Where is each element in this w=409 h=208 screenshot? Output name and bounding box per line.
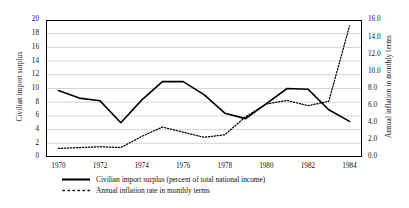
y-axis-left-tick-label: 8 <box>17 98 39 106</box>
x-axis-tick-label: 1978 <box>210 162 240 170</box>
y-axis-right-tick-label: 4.0 <box>368 118 392 126</box>
y-axis-left-tick-label: 6 <box>17 111 39 119</box>
y-axis-right-tick-label: 2.0 <box>368 135 392 143</box>
y-axis-left-tick-label: 2 <box>17 139 39 147</box>
y-axis-right-tick-label: 16.0 <box>368 15 392 23</box>
x-axis-tick-label: 1980 <box>251 162 281 170</box>
y-axis-right-tick-label: 6.0 <box>368 101 392 109</box>
legend-label-annual-inflation-rate: Annual inflation rate in monthly terms <box>92 186 210 195</box>
x-axis-tick-label: 1976 <box>168 162 198 170</box>
y-axis-right-tick-label: 12.0 <box>368 50 392 58</box>
x-axis-tick-label: 1974 <box>127 162 157 170</box>
plot-svg <box>46 20 362 157</box>
y-axis-left-tick-label: 0 <box>17 152 39 160</box>
y-axis-right-tick-label: 0.0 <box>368 152 392 160</box>
legend-item-annual-inflation-rate: Annual inflation rate in monthly terms <box>62 185 362 196</box>
x-axis-tick-label: 1984 <box>335 162 365 170</box>
dotted-line-key-icon <box>62 185 92 196</box>
series-line-annual-inflation-rate <box>58 26 349 148</box>
y-axis-left-tick-label: 4 <box>17 125 39 133</box>
y-axis-left-tick-label: 14 <box>17 57 39 65</box>
x-axis-tick-label: 1972 <box>85 162 115 170</box>
chart-figure: Civilian import surplus Annual inflation… <box>0 0 409 208</box>
y-axis-left-tick-label: 20 <box>17 15 39 23</box>
gridlines <box>46 34 362 144</box>
y-axis-left-tick-label: 12 <box>17 70 39 78</box>
y-axis-right-tick-label: 8.0 <box>368 84 392 92</box>
y-axis-right-tick-label: 14.0 <box>368 33 392 41</box>
x-axis-tick-label: 1970 <box>43 162 73 170</box>
x-axis-tick-label: 1982 <box>293 162 323 170</box>
legend-label-civilian-import-surplus: Civilian import surplus (percent of tota… <box>92 175 265 184</box>
y-axis-left-tick-label: 16 <box>17 43 39 51</box>
plot-area <box>46 20 362 157</box>
chart-legend: Civilian import surplus (percent of tota… <box>62 174 362 196</box>
y-axis-right-tick-label: 10.0 <box>368 67 392 75</box>
solid-line-key-icon <box>62 174 92 185</box>
y-axis-left-tick-label: 10 <box>17 84 39 92</box>
legend-item-civilian-import-surplus: Civilian import surplus (percent of tota… <box>62 174 362 185</box>
y-axis-left-tick-label: 18 <box>17 29 39 37</box>
